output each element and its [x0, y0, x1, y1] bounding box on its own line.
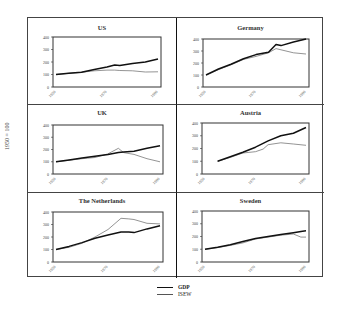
svg-text:1990: 1990: [298, 89, 307, 98]
svg-text:200: 200: [193, 61, 199, 66]
svg-text:100: 100: [192, 247, 198, 252]
svg-text:100: 100: [43, 159, 49, 164]
svg-text:300: 300: [193, 49, 199, 54]
svg-text:0: 0: [196, 260, 198, 265]
svg-text:1970: 1970: [99, 89, 108, 98]
svg-text:300: 300: [43, 47, 49, 52]
svg-text:1990: 1990: [152, 264, 161, 273]
legend: GDP ISEW: [157, 284, 191, 298]
svg-text:400: 400: [193, 37, 199, 42]
svg-text:1950: 1950: [48, 264, 57, 273]
panel-austria: Austria 0100200300400195019701990: [176, 104, 324, 192]
legend-item-gdp: GDP: [157, 284, 191, 291]
svg-text:300: 300: [192, 133, 198, 138]
svg-text:1990: 1990: [152, 176, 161, 185]
svg-text:1950: 1950: [197, 176, 206, 185]
svg-text:200: 200: [43, 235, 49, 240]
legend-label: GDP: [178, 284, 190, 291]
gdp-swatch-icon: [157, 287, 173, 288]
svg-text:100: 100: [192, 159, 198, 164]
panel-uk: UK 0100200300400195019701990: [28, 104, 176, 192]
svg-text:1950: 1950: [48, 89, 57, 98]
svg-text:0: 0: [47, 260, 49, 265]
line-chart: 0100200300400195019701990: [28, 193, 176, 279]
panel-sweden: Sweden 0100200300400195019701990: [176, 192, 324, 278]
legend-label: ISEW: [178, 291, 191, 298]
svg-text:100: 100: [193, 73, 199, 78]
svg-text:0: 0: [47, 85, 49, 90]
svg-text:400: 400: [43, 210, 49, 215]
line-chart: 0100200300400195019701990: [177, 193, 325, 279]
legend-item-isew: ISEW: [157, 291, 191, 298]
svg-text:100: 100: [43, 72, 49, 77]
small-multiples-frame: US 0100200300400195019701990 Germany 010…: [27, 17, 323, 277]
svg-text:1950: 1950: [48, 176, 57, 185]
y-axis-title: 1950 = 100: [4, 123, 10, 150]
line-chart: 0100200300400195019701990: [177, 18, 325, 104]
svg-text:400: 400: [43, 35, 49, 40]
svg-text:1970: 1970: [247, 176, 256, 185]
svg-text:1990: 1990: [298, 176, 307, 185]
svg-text:200: 200: [192, 146, 198, 151]
panel-germany: Germany 0100200300400195019701990: [176, 18, 324, 104]
svg-text:100: 100: [43, 247, 49, 252]
svg-text:200: 200: [43, 60, 49, 65]
line-chart: 0100200300400195019701990: [28, 18, 176, 104]
svg-text:0: 0: [196, 172, 198, 177]
svg-text:200: 200: [192, 234, 198, 239]
svg-text:400: 400: [192, 209, 198, 214]
svg-text:400: 400: [192, 121, 198, 126]
isew-swatch-icon: [157, 294, 173, 295]
panel-us: US 0100200300400195019701990: [28, 18, 176, 104]
svg-text:0: 0: [197, 85, 199, 90]
svg-text:1970: 1970: [248, 89, 257, 98]
svg-text:0: 0: [47, 172, 49, 177]
svg-text:1990: 1990: [298, 264, 307, 273]
svg-text:200: 200: [43, 147, 49, 152]
panel-netherlands: The Netherlands 010020030040019501970199…: [28, 192, 176, 278]
svg-text:1970: 1970: [100, 176, 109, 185]
svg-text:1970: 1970: [100, 264, 109, 273]
line-chart: 0100200300400195019701990: [28, 105, 176, 193]
svg-text:400: 400: [43, 123, 49, 128]
svg-text:1990: 1990: [150, 89, 159, 98]
svg-text:300: 300: [43, 135, 49, 140]
line-chart: 0100200300400195019701990: [177, 105, 325, 193]
svg-text:1950: 1950: [197, 264, 206, 273]
svg-text:1970: 1970: [247, 264, 256, 273]
svg-text:300: 300: [43, 222, 49, 227]
svg-text:300: 300: [192, 221, 198, 226]
svg-text:1950: 1950: [198, 89, 207, 98]
